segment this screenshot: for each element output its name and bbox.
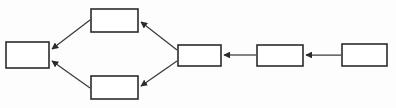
node-middle-rect[interactable] — [257, 45, 303, 66]
node-junction-rect[interactable] — [178, 45, 221, 66]
diagram-canvas — [0, 0, 396, 108]
node-top-branch-rect[interactable] — [91, 9, 138, 32]
node-right-rect[interactable] — [342, 44, 387, 66]
edge-bottom-to-left — [52, 61, 90, 88]
node-top-branch[interactable] — [91, 9, 138, 32]
edge-junction-to-bottom — [141, 61, 177, 86]
node-left[interactable] — [6, 42, 49, 68]
node-middle[interactable] — [257, 45, 303, 66]
node-group — [6, 9, 387, 99]
node-bottom-branch[interactable] — [91, 76, 138, 99]
node-left-rect[interactable] — [6, 42, 49, 68]
node-junction[interactable] — [178, 45, 221, 66]
edge-top-to-left — [52, 20, 90, 49]
node-right[interactable] — [342, 44, 387, 66]
flowchart-svg — [0, 0, 396, 108]
node-bottom-branch-rect[interactable] — [91, 76, 138, 99]
edge-junction-to-top — [141, 22, 177, 50]
